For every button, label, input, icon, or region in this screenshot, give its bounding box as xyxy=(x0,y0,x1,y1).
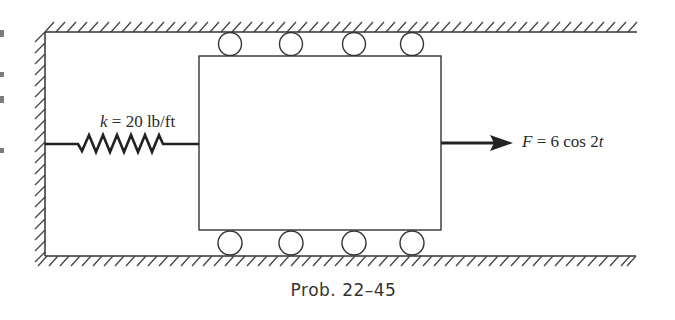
force-arrow xyxy=(441,135,513,151)
spring-constant-label: k = 20 lb/ft xyxy=(100,112,175,132)
bottom-wall xyxy=(38,256,636,266)
force-label: F = 6 cos 2t xyxy=(522,132,603,152)
figure: k = 20 lb/ft F = 6 cos 2t Prob. 22–45 xyxy=(0,0,675,320)
roller xyxy=(401,33,424,56)
top-wall xyxy=(45,22,637,32)
mechanics-diagram xyxy=(0,0,675,320)
top-rollers xyxy=(219,33,424,56)
roller xyxy=(342,231,366,255)
spring xyxy=(45,135,199,152)
roller xyxy=(400,231,424,255)
roller xyxy=(279,231,303,255)
left-wall xyxy=(35,32,45,262)
roller xyxy=(280,33,303,56)
roller xyxy=(218,231,242,255)
roller xyxy=(343,33,366,56)
block xyxy=(199,56,441,230)
bottom-rollers xyxy=(218,231,424,255)
roller xyxy=(219,33,242,56)
figure-caption: Prob. 22–45 xyxy=(0,280,675,300)
